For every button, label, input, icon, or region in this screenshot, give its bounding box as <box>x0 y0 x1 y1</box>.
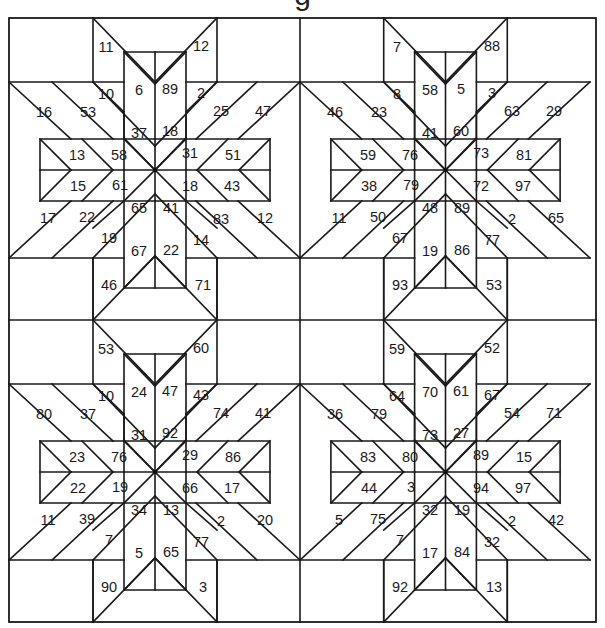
cell-number-top-right-top-left-inner: 8 <box>393 86 401 102</box>
cell-number-bottom-right-top-mid-left: 70 <box>422 384 438 400</box>
cell-number-bottom-left-left-mid-lower-b: 19 <box>112 479 128 495</box>
cell-number-bottom-left-center-up-right: 92 <box>162 425 178 441</box>
cell-number-top-left-center-down-right: 41 <box>163 200 179 216</box>
cell-number-bottom-left-center-up-left: 31 <box>131 427 147 443</box>
cell-number-bottom-left-center-down-right: 13 <box>163 502 179 518</box>
cell-number-top-left-left-mid-upper-a: 13 <box>69 147 85 163</box>
cell-number-bottom-right-top-left-inner: 64 <box>389 388 405 404</box>
cell-number-top-left-left-mid-lower-a: 15 <box>70 178 86 194</box>
cell-number-bottom-left-top-mid-right: 47 <box>162 383 178 399</box>
cell-number-top-left-bottom-left-outer: 46 <box>101 277 117 293</box>
cell-number-bottom-left-right-mid-upper-a: 29 <box>182 447 198 463</box>
cell-number-bottom-left-bottom-left-inner: 7 <box>105 532 113 548</box>
cell-number-top-left-center-down-left: 65 <box>131 200 147 216</box>
cell-number-bottom-left-right-lower-inner: 2 <box>217 513 225 529</box>
cell-number-top-right-left-mid-upper-a: 59 <box>360 147 376 163</box>
cell-number-bottom-right-left-mid-upper-a: 83 <box>360 449 376 465</box>
cell-number-top-left-left-upper-outer: 16 <box>36 104 52 120</box>
cell-number-bottom-right-bottom-left-outer: 92 <box>392 579 408 595</box>
cell-number-top-right-right-upper-inner: 63 <box>504 103 520 119</box>
cell-number-bottom-left-left-upper-inner: 37 <box>80 406 96 422</box>
cell-number-top-right-top-left-outer: 7 <box>393 39 401 55</box>
cell-number-bottom-right-bottom-right-inner: 32 <box>484 534 500 550</box>
cell-number-bottom-right-top-right-inner: 67 <box>484 387 500 403</box>
cell-number-top-left-top-left-outer: 11 <box>98 39 113 55</box>
cell-number-top-left-right-mid-lower-a: 18 <box>182 178 198 194</box>
cell-number-top-left-bottom-mid-right: 22 <box>163 242 179 258</box>
cell-number-top-left-center-up-left: 37 <box>131 125 147 141</box>
cell-number-bottom-right-center-up-right: 27 <box>453 425 469 441</box>
star-block-bottom-left <box>9 320 300 622</box>
cell-number-top-left-bottom-right-inner: 14 <box>193 232 209 248</box>
cell-number-top-left-bottom-left-inner: 19 <box>101 230 117 246</box>
cell-number-bottom-left-right-mid-upper-b: 86 <box>225 449 241 465</box>
cell-number-bottom-left-right-upper-outer: 41 <box>255 405 271 421</box>
cell-number-top-right-center-up-right: 60 <box>453 123 469 139</box>
cell-number-bottom-left-left-lower-outer: 11 <box>40 512 55 528</box>
cell-number-bottom-left-right-lower-outer: 20 <box>257 512 273 528</box>
cell-number-top-left-top-mid-left: 6 <box>135 82 143 98</box>
cell-number-bottom-left-bottom-mid-left: 5 <box>135 545 143 561</box>
cell-number-top-left-left-mid-upper-b: 58 <box>111 147 127 163</box>
cell-number-bottom-right-center-up-left: 73 <box>422 427 438 443</box>
cell-number-top-left-bottom-mid-left: 67 <box>131 243 147 259</box>
cell-number-bottom-left-left-mid-upper-b: 76 <box>111 449 127 465</box>
cell-number-top-right-right-mid-lower-b: 97 <box>515 178 531 194</box>
cell-number-top-left-right-mid-upper-a: 31 <box>182 145 198 161</box>
cell-number-bottom-left-left-lower-inner: 39 <box>79 511 95 527</box>
cell-number-top-left-top-left-inner: 10 <box>98 86 114 102</box>
cell-number-top-right-bottom-left-inner: 67 <box>392 230 408 246</box>
cell-number-top-left-bottom-right-outer: 71 <box>195 277 211 293</box>
cell-number-bottom-right-left-mid-lower-a: 44 <box>361 480 377 496</box>
cell-number-bottom-right-bottom-right-outer: 13 <box>486 579 502 595</box>
cell-number-top-left-left-lower-inner: 22 <box>79 209 95 225</box>
cell-number-bottom-right-right-mid-upper-b: 15 <box>516 449 532 465</box>
cell-number-bottom-left-bottom-right-inner: 77 <box>193 534 209 550</box>
star-block-bottom-right <box>300 320 590 622</box>
cell-number-top-right-left-mid-lower-b: 79 <box>403 177 419 193</box>
cell-number-top-right-left-mid-lower-a: 38 <box>361 178 377 194</box>
cell-number-top-right-bottom-left-outer: 93 <box>392 277 408 293</box>
cell-number-bottom-right-left-mid-lower-b: 3 <box>407 479 415 495</box>
cell-number-bottom-right-left-mid-upper-b: 80 <box>402 449 418 465</box>
cell-number-top-left-right-lower-outer: 12 <box>257 210 273 226</box>
cell-number-bottom-left-top-mid-left: 24 <box>131 384 147 400</box>
cell-number-top-left-right-upper-inner: 25 <box>213 103 229 119</box>
cell-number-top-right-center-up-left: 41 <box>422 125 438 141</box>
cell-number-top-right-right-mid-upper-a: 73 <box>473 145 489 161</box>
cell-number-bottom-right-left-lower-inner: 75 <box>370 511 386 527</box>
cell-number-top-right-top-mid-left: 58 <box>422 82 438 98</box>
cell-number-bottom-right-right-mid-upper-a: 89 <box>473 447 489 463</box>
cell-number-top-right-right-lower-outer: 65 <box>548 210 564 226</box>
star-block-top-left <box>9 18 300 320</box>
cell-number-bottom-right-right-lower-inner: 2 <box>508 513 516 529</box>
cell-number-bottom-left-center-down-left: 34 <box>131 502 147 518</box>
quilt-puzzle-grid: 1110689122371816531358156117222547315118… <box>0 0 605 628</box>
cell-number-bottom-right-bottom-left-inner: 7 <box>396 532 404 548</box>
cell-number-top-left-top-mid-right: 89 <box>162 81 178 97</box>
cell-number-bottom-right-right-upper-outer: 71 <box>546 405 562 421</box>
cell-number-top-right-left-lower-outer: 11 <box>331 210 346 226</box>
cell-number-bottom-right-right-upper-inner: 54 <box>504 405 520 421</box>
cell-number-bottom-left-top-right-outer: 60 <box>193 340 209 356</box>
cell-number-bottom-right-top-left-outer: 59 <box>389 341 405 357</box>
cell-number-bottom-left-bottom-mid-right: 65 <box>163 544 179 560</box>
cell-number-top-right-bottom-mid-right: 86 <box>454 242 470 258</box>
cell-number-bottom-right-left-lower-outer: 5 <box>335 512 343 528</box>
cell-number-top-right-right-mid-upper-b: 81 <box>516 147 532 163</box>
cell-number-top-right-left-upper-inner: 23 <box>371 104 387 120</box>
cell-number-bottom-right-top-right-outer: 52 <box>484 340 500 356</box>
cell-number-top-right-right-mid-lower-a: 72 <box>473 178 489 194</box>
cell-number-bottom-right-right-mid-lower-b: 97 <box>515 480 531 496</box>
cell-number-bottom-right-top-mid-right: 61 <box>453 383 469 399</box>
cell-number-bottom-right-center-down-left: 32 <box>422 502 438 518</box>
cell-number-top-left-center-up-right: 18 <box>162 123 178 139</box>
cell-number-bottom-left-top-left-inner: 10 <box>98 388 114 404</box>
cell-number-top-right-right-lower-inner: 2 <box>508 211 516 227</box>
cell-number-bottom-right-left-upper-outer: 36 <box>327 406 343 422</box>
cell-number-top-left-right-mid-upper-b: 51 <box>225 147 241 163</box>
cell-number-top-left-right-upper-outer: 47 <box>255 103 271 119</box>
cell-number-bottom-right-bottom-mid-left: 17 <box>422 545 438 561</box>
cell-number-bottom-left-right-mid-lower-a: 66 <box>182 480 198 496</box>
cell-number-top-left-left-lower-outer: 17 <box>40 210 56 226</box>
